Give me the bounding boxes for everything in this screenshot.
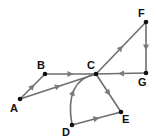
node-c — [94, 72, 99, 77]
node-b — [43, 72, 48, 77]
node-a — [18, 97, 23, 102]
directed-graph — [0, 0, 157, 138]
node-label-d: D — [62, 127, 70, 138]
edge-g-c-arrow-icon — [118, 70, 124, 76]
node-label-b: B — [37, 60, 45, 71]
edges-group — [20, 22, 149, 125]
node-label-a: A — [10, 103, 18, 114]
node-g — [144, 71, 149, 76]
node-label-c: C — [87, 60, 95, 71]
node-label-e: E — [122, 114, 129, 125]
node-d — [70, 123, 75, 128]
edge-a-c-arrow-icon — [54, 85, 61, 91]
node-label-f: F — [138, 8, 145, 19]
edge-f-g-arrow-icon — [143, 45, 149, 51]
edge-b-c-arrow-icon — [68, 71, 74, 77]
node-label-g: G — [138, 77, 147, 88]
node-f — [144, 20, 149, 25]
